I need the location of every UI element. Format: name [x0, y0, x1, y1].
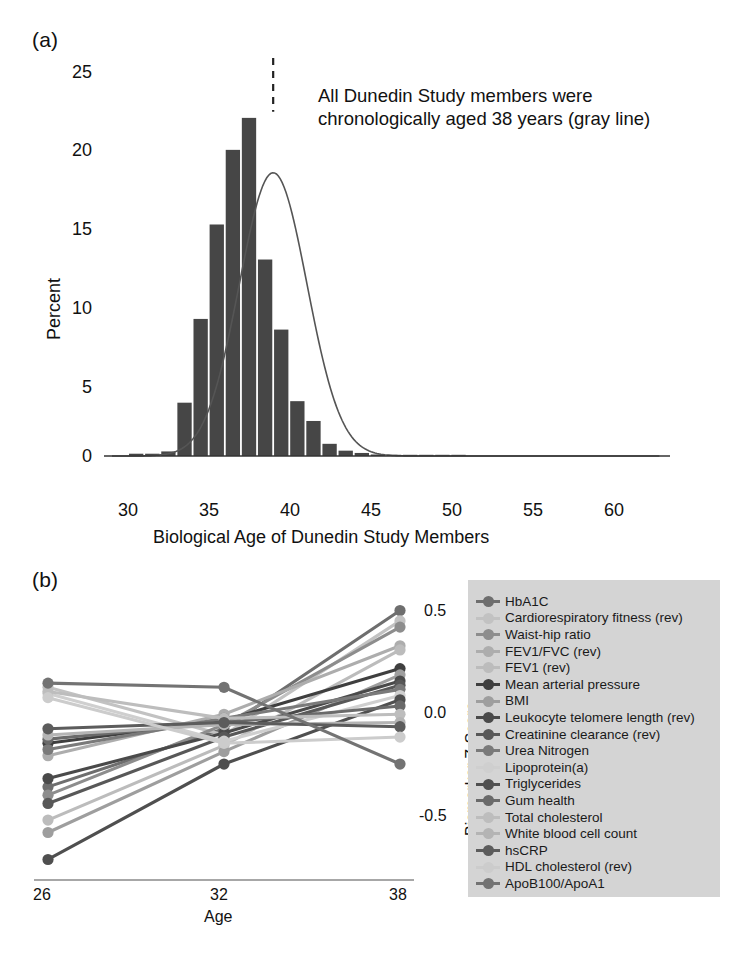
legend-item[interactable]: Waist-hip ratio: [476, 626, 591, 643]
legend-item[interactable]: BMI: [476, 693, 529, 710]
panel-b-x-axis-title: Age: [204, 908, 232, 926]
legend-item[interactable]: Total cholesterol: [476, 809, 603, 826]
legend-item[interactable]: Lipoprotein(a): [476, 759, 588, 776]
legend-item-label: HbA1C: [505, 595, 549, 609]
histogram-bar: [177, 403, 191, 456]
age-tick-26: 26: [33, 886, 51, 904]
legend-item-label: Total cholesterol: [505, 811, 603, 825]
legend-marker-icon: [476, 596, 500, 607]
legend-item-label: Mean arterial pressure: [505, 678, 640, 692]
legend-item-label: Lipoprotein(a): [505, 761, 588, 775]
biomarker-legend: HbA1CCardiorespiratory fitness (rev)Wais…: [468, 580, 720, 897]
x-tick-35: 35: [199, 500, 219, 521]
histogram-bar: [306, 421, 320, 456]
histogram-bar: [226, 150, 240, 456]
z-tick-0p0: 0.0: [424, 704, 446, 722]
legend-item-label: Creatinine clearance (rev): [505, 728, 660, 742]
legend-marker-icon: [476, 712, 500, 723]
histogram-bar: [274, 330, 288, 456]
slope-point: [218, 758, 229, 769]
histogram-bar: [242, 118, 256, 456]
legend-item[interactable]: hsCRP: [476, 842, 548, 859]
legend-item-label: FEV1 (rev): [505, 661, 570, 675]
legend-item[interactable]: Triglycerides: [476, 776, 581, 793]
legend-marker-icon: [476, 795, 500, 806]
legend-item-label: Triglycerides: [505, 777, 581, 791]
panel-a-histogram: (a) Percent 25 20 15 10 5 0 All Dunedin …: [0, 0, 734, 556]
legend-item[interactable]: FEV1 (rev): [476, 659, 570, 676]
z-tick-0p5: 0.5: [424, 602, 446, 620]
legend-marker-icon: [476, 779, 500, 790]
legend-item[interactable]: White blood cell count: [476, 825, 637, 842]
slope-point: [42, 814, 53, 825]
legend-marker-icon: [476, 828, 500, 839]
legend-item-label: Cardiorespiratory fitness (rev): [505, 611, 683, 625]
slope-point: [394, 758, 405, 769]
histogram-bar: [290, 401, 304, 456]
legend-item-label: Urea Nitrogen: [505, 744, 589, 758]
legend-marker-icon: [476, 662, 500, 673]
legend-item-label: BMI: [505, 694, 529, 708]
legend-marker-icon: [476, 845, 500, 856]
slope-point: [42, 744, 53, 755]
slope-point: [218, 682, 229, 693]
legend-item-label: FEV1/FVC (rev): [505, 645, 601, 659]
legend-marker-icon: [476, 613, 500, 624]
slope-point: [394, 605, 405, 616]
legend-marker-icon: [476, 679, 500, 690]
legend-item-label: ApoB100/ApoA1: [505, 877, 605, 891]
histogram-bar: [210, 224, 224, 456]
z-tick-neg0p5: -0.5: [419, 807, 447, 825]
age-tick-38: 38: [389, 886, 407, 904]
slope-point: [218, 717, 229, 728]
legend-item[interactable]: Cardiorespiratory fitness (rev): [476, 610, 683, 627]
legend-item-label: Waist-hip ratio: [505, 628, 591, 642]
slope-point: [394, 622, 405, 633]
slope-point: [42, 678, 53, 689]
legend-marker-icon: [476, 646, 500, 657]
slope-point: [394, 731, 405, 742]
legend-marker-icon: [476, 729, 500, 740]
slope-point: [42, 723, 53, 734]
legend-marker-icon: [476, 862, 500, 873]
slope-point: [42, 692, 53, 703]
slope-point: [218, 738, 229, 749]
x-tick-50: 50: [442, 500, 462, 521]
legend-item-label: hsCRP: [505, 844, 548, 858]
histogram-bars: [129, 118, 466, 456]
legend-item[interactable]: Mean arterial pressure: [476, 676, 640, 693]
histogram-plot: [0, 0, 734, 556]
legend-item[interactable]: Creatinine clearance (rev): [476, 726, 660, 743]
legend-marker-icon: [476, 745, 500, 756]
legend-marker-icon: [476, 878, 500, 889]
slope-series-group: [42, 605, 405, 865]
slope-point: [42, 798, 53, 809]
slope-point: [394, 721, 405, 732]
legend-marker-icon: [476, 696, 500, 707]
x-tick-40: 40: [280, 500, 300, 521]
histogram-bar: [322, 444, 336, 456]
panel-b-slope-chart: (b) 0.5 0.0 -0.5 Biomarker Z-Score 26 32…: [0, 556, 734, 963]
legend-item[interactable]: Urea Nitrogen: [476, 742, 589, 759]
x-tick-55: 55: [523, 500, 543, 521]
legend-item-label: Leukocyte telomere length (rev): [505, 711, 695, 725]
x-tick-60: 60: [604, 500, 624, 521]
legend-item[interactable]: FEV1/FVC (rev): [476, 643, 601, 660]
slope-point: [42, 773, 53, 784]
legend-item[interactable]: Leukocyte telomere length (rev): [476, 709, 695, 726]
histogram-bar: [258, 260, 272, 456]
legend-item[interactable]: HbA1C: [476, 593, 549, 610]
legend-item-label: HDL cholesterol (rev): [505, 860, 632, 874]
legend-marker-icon: [476, 812, 500, 823]
panel-a-x-axis-title: Biological Age of Dunedin Study Members: [153, 527, 489, 548]
slope-point: [42, 854, 53, 865]
x-tick-45: 45: [361, 500, 381, 521]
legend-marker-icon: [476, 762, 500, 773]
legend-item[interactable]: Gum health: [476, 792, 575, 809]
legend-item[interactable]: HDL cholesterol (rev): [476, 859, 632, 876]
slope-point: [394, 644, 405, 655]
legend-item[interactable]: ApoB100/ApoA1: [476, 875, 605, 892]
legend-item-label: White blood cell count: [505, 827, 637, 841]
legend-item-label: Gum health: [505, 794, 575, 808]
x-tick-30: 30: [118, 500, 138, 521]
